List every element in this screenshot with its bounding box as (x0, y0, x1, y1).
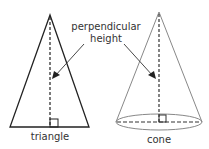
cone-label: cone (147, 135, 171, 145)
arrows (52, 44, 156, 79)
height-label: height (90, 34, 122, 44)
triangle-label: triangle (31, 132, 70, 142)
perpendicular-label: perpendicular (71, 22, 140, 32)
